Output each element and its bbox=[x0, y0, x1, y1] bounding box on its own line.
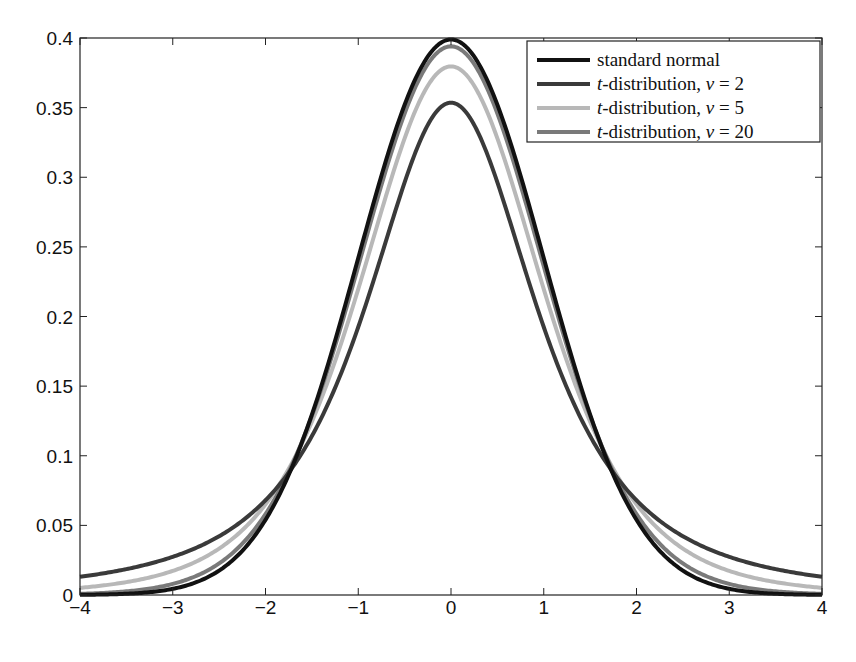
x-tick-label: 2 bbox=[631, 597, 642, 618]
legend-label: t-distribution, ν = 5 bbox=[597, 97, 744, 118]
x-tick-label: −3 bbox=[162, 597, 184, 618]
x-tick-label: 1 bbox=[538, 597, 549, 618]
y-tick-label: 0 bbox=[62, 585, 73, 606]
x-tick-label: 4 bbox=[817, 597, 828, 618]
curve-t-nu-5 bbox=[80, 66, 822, 587]
y-tick-label: 0.1 bbox=[47, 446, 73, 467]
t-distribution-chart: −4−3−2−101234 00.050.10.150.20.250.30.35… bbox=[0, 0, 856, 662]
legend: standard normalt-distribution, ν = 2t-di… bbox=[527, 41, 820, 142]
legend-label: t-distribution, ν = 20 bbox=[597, 121, 753, 142]
x-axis-tick-labels: −4−3−2−101234 bbox=[69, 597, 828, 618]
x-tick-label: 3 bbox=[724, 597, 735, 618]
y-tick-label: 0.3 bbox=[47, 167, 73, 188]
legend-label: standard normal bbox=[597, 49, 720, 70]
y-tick-label: 0.05 bbox=[36, 515, 73, 536]
x-tick-label: −1 bbox=[347, 597, 369, 618]
y-tick-label: 0.15 bbox=[36, 376, 73, 397]
y-tick-label: 0.2 bbox=[47, 307, 73, 328]
legend-label: t-distribution, ν = 2 bbox=[597, 73, 744, 94]
y-axis-tick-labels: 00.050.10.150.20.250.30.350.4 bbox=[36, 28, 73, 606]
curve-t-nu-2 bbox=[80, 103, 822, 577]
x-tick-label: −2 bbox=[255, 597, 277, 618]
y-tick-label: 0.35 bbox=[36, 98, 73, 119]
y-tick-label: 0.4 bbox=[47, 28, 74, 49]
x-tick-label: 0 bbox=[446, 597, 457, 618]
y-tick-label: 0.25 bbox=[36, 237, 73, 258]
